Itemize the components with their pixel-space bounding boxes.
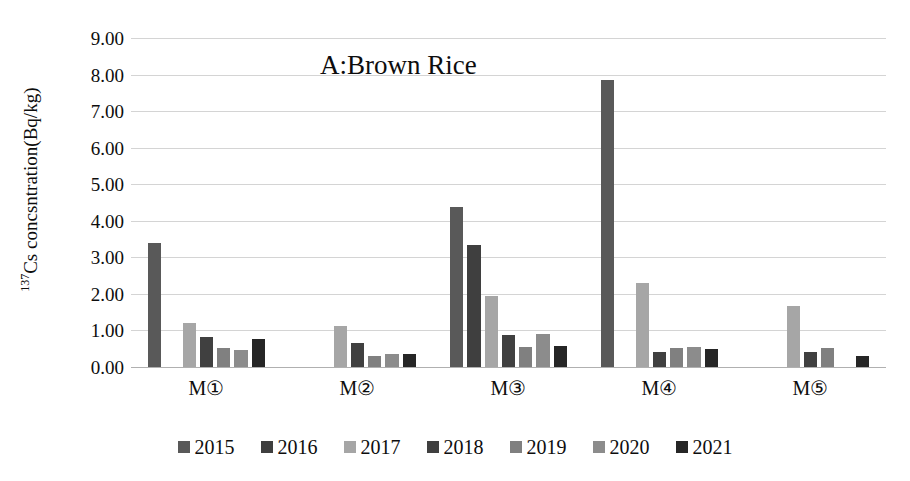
bar[interactable] [519, 347, 532, 367]
bar[interactable] [804, 352, 817, 367]
x-tick-label: M③ [491, 376, 527, 400]
y-tick-label: 6.00 [91, 138, 124, 157]
bars-layer [131, 38, 886, 367]
legend-label: 2015 [195, 437, 235, 457]
bar[interactable] [334, 326, 347, 367]
y-axis-title-text: 137Cs concsntration(Bq/kg) [18, 88, 41, 292]
bar[interactable] [554, 346, 567, 367]
legend-item[interactable]: 2015 [178, 437, 235, 457]
y-axis-title-main: Cs concsntration(Bq/kg) [20, 88, 41, 274]
legend-item[interactable]: 2021 [676, 437, 733, 457]
y-tick-label: 5.00 [91, 175, 124, 194]
bar[interactable] [670, 348, 683, 367]
bar[interactable] [467, 245, 480, 367]
legend-swatch-icon [178, 441, 190, 453]
legend-swatch-icon [261, 441, 273, 453]
legend-item[interactable]: 2016 [261, 437, 318, 457]
plot-area [131, 38, 886, 367]
x-axis-tick-labels: M①M②M③M④M⑤ [131, 376, 886, 410]
legend-swatch-icon [593, 441, 605, 453]
legend-label: 2020 [610, 437, 650, 457]
y-axis-tick-labels: 0.001.002.003.004.005.006.007.008.009.00 [58, 0, 130, 380]
chart-legend: 2015201620172018201920202021 [0, 432, 910, 462]
y-axis-title-superscript: 137 [18, 274, 32, 292]
bar-group [584, 38, 735, 367]
x-tick-label: M⑤ [793, 376, 829, 400]
bar-group [433, 38, 584, 367]
x-tick-label: M② [340, 376, 376, 400]
legend-label: 2019 [527, 437, 567, 457]
bar[interactable] [485, 296, 498, 367]
legend-label: 2017 [361, 437, 401, 457]
bar[interactable] [450, 207, 463, 367]
y-axis-title: 137Cs concsntration(Bq/kg) [0, 0, 60, 380]
bar[interactable] [234, 350, 247, 367]
bar-group [282, 38, 433, 367]
bar[interactable] [217, 348, 230, 367]
bar[interactable] [705, 349, 718, 367]
bar[interactable] [636, 283, 649, 367]
y-tick-label: 2.00 [91, 284, 124, 303]
bar[interactable] [653, 352, 666, 367]
legend-swatch-icon [344, 441, 356, 453]
bar[interactable] [502, 335, 515, 367]
bar[interactable] [403, 354, 416, 367]
bar[interactable] [601, 80, 614, 367]
bar[interactable] [183, 323, 196, 367]
y-tick-label: 8.00 [91, 65, 124, 84]
axis-baseline [131, 367, 886, 368]
legend-label: 2016 [278, 437, 318, 457]
y-tick-label: 9.00 [91, 29, 124, 48]
legend-swatch-icon [427, 441, 439, 453]
bar[interactable] [148, 243, 161, 367]
y-tick-label: 1.00 [91, 321, 124, 340]
bar[interactable] [856, 356, 869, 367]
x-tick-label: M④ [642, 376, 678, 400]
y-tick-label: 0.00 [91, 358, 124, 377]
x-tick-label: M① [189, 376, 225, 400]
legend-swatch-icon [676, 441, 688, 453]
bar[interactable] [821, 348, 834, 367]
bar[interactable] [368, 356, 381, 367]
legend-label: 2021 [693, 437, 733, 457]
y-tick-label: 7.00 [91, 102, 124, 121]
bar[interactable] [385, 354, 398, 367]
legend-label: 2018 [444, 437, 484, 457]
legend-item[interactable]: 2017 [344, 437, 401, 457]
chart-figure: 137Cs concsntration(Bq/kg) 0.001.002.003… [0, 0, 910, 481]
y-tick-label: 4.00 [91, 211, 124, 230]
legend-item[interactable]: 2020 [593, 437, 650, 457]
legend-item[interactable]: 2019 [510, 437, 567, 457]
legend-item[interactable]: 2018 [427, 437, 484, 457]
y-tick-label: 3.00 [91, 248, 124, 267]
bar-group [735, 38, 886, 367]
legend-swatch-icon [510, 441, 522, 453]
bar[interactable] [200, 337, 213, 367]
bar-group [131, 38, 282, 367]
bar[interactable] [252, 339, 265, 367]
bar[interactable] [536, 334, 549, 367]
bar[interactable] [351, 343, 364, 367]
bar[interactable] [787, 306, 800, 367]
bar[interactable] [687, 347, 700, 367]
